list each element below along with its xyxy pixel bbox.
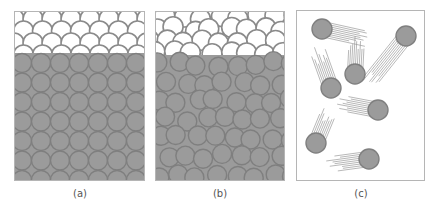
panel-a [0, 9, 167, 190]
diagram-canvas [0, 0, 438, 207]
panel-label-a: (a) [60, 188, 100, 199]
panel-c [297, 11, 425, 181]
panel-label-b: (b) [200, 188, 240, 199]
gas-particle [326, 149, 379, 171]
gas-particle [345, 36, 365, 84]
gas-particle [306, 108, 334, 153]
gas-particle [312, 47, 341, 98]
panel-b [139, 5, 305, 187]
states-of-matter-figure: (a) (b) (c) [0, 0, 438, 207]
gas-particle [337, 97, 388, 120]
panel-label-c: (c) [341, 188, 381, 199]
gas-particle [312, 19, 367, 46]
gas-particle [363, 26, 416, 83]
